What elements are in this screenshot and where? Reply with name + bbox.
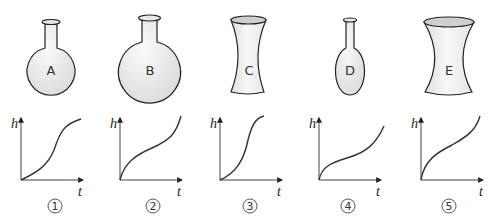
y-axis-label: h: [110, 116, 117, 131]
graph-2: h t 2: [110, 116, 182, 213]
vessel-d: D: [335, 18, 364, 95]
vessel-c: C: [231, 16, 266, 94]
vessel-b: B: [119, 15, 181, 103]
vessel-label-b: B: [146, 63, 155, 78]
graph-3: h t 3: [210, 116, 282, 213]
vessel-label-e: E: [445, 63, 453, 78]
vessel-label-a: A: [47, 63, 56, 78]
y-axis-label: h: [309, 116, 316, 131]
x-axis-label: t: [277, 184, 282, 199]
graph-number-4: 4: [345, 200, 352, 213]
vessel-a: A: [27, 20, 75, 96]
x-axis-label: t: [479, 184, 484, 199]
graph-4: h t 4: [309, 116, 384, 213]
graph-5: h t 5: [411, 116, 484, 213]
y-axis-label: h: [411, 116, 418, 131]
x-axis-label: t: [376, 184, 381, 199]
graph-number-2: 2: [150, 200, 157, 213]
graph-number-1: 1: [52, 200, 59, 213]
graph-number-3: 3: [247, 200, 254, 213]
x-axis-label: t: [78, 184, 83, 199]
vessel-label-d: D: [345, 63, 355, 78]
y-axis-label: h: [210, 116, 217, 131]
graph-number-5: 5: [446, 200, 453, 213]
y-axis-label: h: [11, 116, 18, 131]
vessel-e: E: [424, 17, 474, 95]
graph-1: h t 1: [11, 116, 83, 213]
vessel-label-c: C: [244, 63, 253, 78]
x-axis-label: t: [177, 184, 182, 199]
diagram-canvas: A B C D E h t 1 h t: [0, 0, 493, 223]
